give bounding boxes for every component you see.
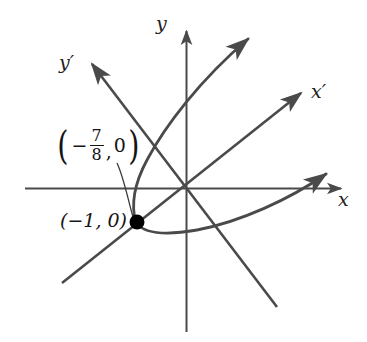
conic-rotation-figure: y x x′ y′ ( − 7 8 , 0 ) (−1, 0) <box>0 0 367 342</box>
parabola-lower-branch <box>136 174 326 233</box>
x-intercept-label: ( − 7 8 , 0 ) <box>55 128 141 163</box>
vertex-point-label: (−1, 0) <box>60 211 127 230</box>
x-axis-label: x <box>338 190 349 209</box>
minus-sign: − <box>72 136 88 155</box>
y-axis-label: y <box>156 14 167 33</box>
fraction-seven-eighths: 7 8 <box>90 128 104 163</box>
vertex-point-dot <box>130 215 145 230</box>
comma: , <box>106 142 112 163</box>
close-paren: ) <box>128 129 139 162</box>
zero-value: 0 <box>114 136 126 155</box>
fraction-numerator: 7 <box>90 128 104 145</box>
x-prime-axis-label: x′ <box>311 82 326 101</box>
y-prime-axis-label: y′ <box>59 53 74 72</box>
figure-canvas <box>0 0 367 342</box>
fraction-denominator: 8 <box>90 146 104 163</box>
y-prime-axis-line <box>92 64 277 307</box>
open-paren: ( <box>57 129 68 162</box>
